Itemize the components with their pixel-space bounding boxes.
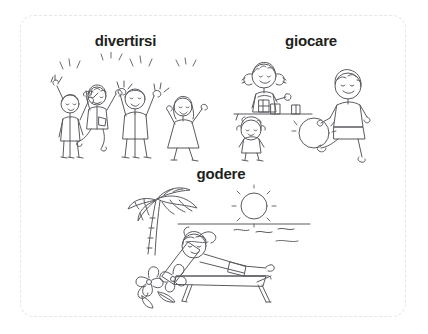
vocabulary-card-divertirsi[interactable]: divertirsi <box>33 33 218 164</box>
card-label-divertirsi: divertirsi <box>33 33 218 48</box>
card-label-giocare: giocare <box>226 33 396 48</box>
worksheet-panel: divertirsi <box>20 15 406 317</box>
vocabulary-card-godere[interactable]: godere <box>126 166 316 312</box>
beach-relaxing-illustration <box>126 184 316 312</box>
card-label-godere: godere <box>126 166 316 181</box>
children-playing-illustration <box>226 52 396 164</box>
vocabulary-card-giocare[interactable]: giocare <box>226 33 396 164</box>
four-people-celebrating-illustration <box>33 52 218 164</box>
